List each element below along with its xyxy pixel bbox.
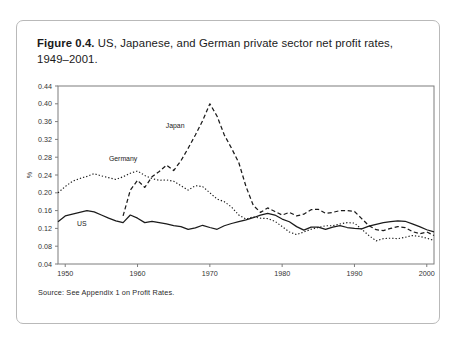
y-tick-label: 0.44 (38, 82, 52, 91)
series-label-japan: Japan (166, 122, 185, 130)
y-axis-title: % (25, 171, 34, 178)
y-tick-label: 0.28 (38, 153, 52, 162)
x-tick-label: 1970 (202, 269, 218, 278)
series-label-germany: Germany (109, 155, 138, 163)
x-tick-label: 1960 (130, 269, 146, 278)
y-tick-label: 0.32 (38, 135, 52, 144)
y-tick-label: 0.08 (38, 242, 52, 251)
series-label-us: US (77, 220, 87, 227)
source-note: Source: See Appendix 1 on Profit Rates. (38, 288, 174, 297)
y-tick-label: 0.24 (38, 171, 52, 180)
plot-frame (58, 86, 434, 264)
x-tick-label: 2000 (419, 269, 435, 278)
y-tick-label: 0.04 (38, 260, 52, 269)
x-tick-label: 1950 (57, 269, 73, 278)
figure-container: Figure 0.4. US, Japanese, and German pri… (16, 20, 440, 324)
y-tick-label: 0.12 (38, 224, 52, 233)
y-tick-label: 0.16 (38, 206, 52, 215)
x-tick-label: 1990 (346, 269, 362, 278)
chart-plot-area: 0.040.080.120.160.200.240.280.320.360.40… (17, 21, 440, 324)
line-chart: 0.040.080.120.160.200.240.280.320.360.40… (17, 21, 440, 324)
y-tick-label: 0.20 (38, 188, 52, 197)
y-tick-label: 0.36 (38, 117, 52, 126)
y-tick-label: 0.40 (38, 99, 52, 108)
x-tick-label: 1980 (274, 269, 290, 278)
series-line-us (58, 211, 434, 232)
